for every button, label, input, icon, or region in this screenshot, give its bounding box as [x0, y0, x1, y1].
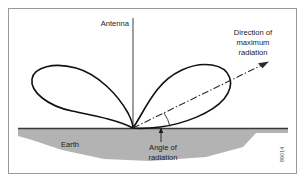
figure-id-code: 89014	[279, 147, 285, 162]
angle-of-radiation-label-line1: Angle of	[149, 143, 178, 152]
earth-label: Earth	[61, 140, 79, 149]
direction-of-max-radiation-label-line3: radiation	[238, 48, 267, 57]
direction-of-max-radiation-label-line2: maximum	[237, 38, 270, 47]
direction-of-max-radiation-label-line1: Direction of	[234, 28, 273, 37]
antenna-label: Antenna	[101, 19, 130, 28]
antenna-radiation-diagram: Antenna Direction of maximum radiation E…	[0, 0, 305, 182]
angle-of-radiation-label-line2: radiation	[148, 153, 177, 162]
diagram-canvas: Antenna Direction of maximum radiation E…	[0, 0, 305, 182]
